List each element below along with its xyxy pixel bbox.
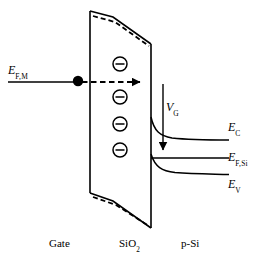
oxide-conduction-edge-dashed	[93, 16, 149, 46]
electron-3	[113, 117, 127, 131]
band-diagram-canvas	[0, 0, 264, 261]
oxide-valence-edge-solid	[90, 193, 151, 228]
fermi-metal-label: EF,M	[8, 64, 28, 76]
electron-source-dot	[73, 76, 83, 86]
electron-4	[113, 143, 127, 157]
region-label-oxide-subscript: 2	[136, 246, 140, 254]
oxide-conduction-edge-solid	[90, 11, 151, 44]
tunneling-annotation	[73, 76, 140, 86]
band-diagram-figure: EF,M VG EC EF,Si EV Gate SiO2 p-Si	[0, 0, 264, 261]
fermi-metal-subscript: F,M	[15, 72, 28, 81]
valence-band-label: EV	[228, 178, 241, 190]
fermi-silicon-label: EF,Si	[228, 151, 248, 163]
region-label-oxide-text: SiO	[119, 237, 136, 249]
electron-1	[113, 57, 127, 71]
conduction-band-label: EC	[228, 121, 241, 133]
electron-2	[113, 90, 127, 104]
gate-voltage-subscript: G	[173, 109, 179, 118]
region-label-silicon: p-Si	[181, 238, 199, 249]
valence-band-line	[151, 154, 229, 175]
fermi-silicon-subscript: F,Si	[235, 159, 247, 168]
conduction-band-subscript: C	[235, 129, 240, 138]
region-label-silicon-text: p-Si	[181, 237, 199, 249]
gate-voltage-label: VG	[166, 101, 179, 113]
region-label-gate-text: Gate	[49, 237, 70, 249]
region-label-gate: Gate	[49, 238, 70, 249]
region-label-oxide: SiO2	[119, 238, 140, 249]
oxide-valence-edge-dashed	[93, 197, 149, 226]
electron-group	[113, 57, 127, 157]
valence-band-subscript: V	[235, 186, 241, 195]
